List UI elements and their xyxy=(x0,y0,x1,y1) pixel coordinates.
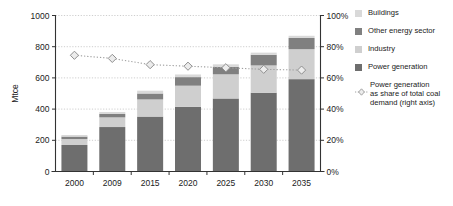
y-axis-right-tick-label: 0% xyxy=(327,167,340,177)
x-axis-category-label: 2030 xyxy=(254,178,273,188)
bar-segment xyxy=(213,74,239,98)
y-axis-right-tick-label: 40% xyxy=(327,104,344,114)
bar-segment xyxy=(175,77,201,86)
y-axis-left-tick-label: 400 xyxy=(35,104,49,114)
legend-item-other-energy-sector: Other energy sector xyxy=(355,27,453,36)
bar-segment xyxy=(289,36,315,38)
legend-swatch-other-energy-sector xyxy=(355,28,362,35)
y-axis-right-tick-label: 20% xyxy=(327,135,344,145)
bar-segment xyxy=(251,53,277,55)
legend-swatch-buildings xyxy=(355,10,362,17)
legend-item-power-generation: Power generation xyxy=(355,63,453,72)
legend-item-buildings: Buildings xyxy=(355,9,453,18)
chart-container: 020040060080010000%20%40%60%80%100%20002… xyxy=(0,0,453,206)
y-axis-left-tick-label: 600 xyxy=(35,73,49,83)
y-axis-left-tick-label: 200 xyxy=(35,135,49,145)
bar-segment xyxy=(175,74,201,77)
series-marker-diamond xyxy=(70,51,78,59)
bar-segment xyxy=(99,114,125,117)
bar-segment xyxy=(99,112,125,114)
bar-segment xyxy=(137,99,163,116)
bar-segment xyxy=(99,127,125,171)
bar-segment xyxy=(289,79,315,171)
bar-segment xyxy=(289,38,315,49)
bar-segment xyxy=(251,93,277,172)
bar-segment xyxy=(61,145,87,172)
bar-segment xyxy=(251,55,277,66)
x-axis-category-label: 2025 xyxy=(216,178,235,188)
bar-segment xyxy=(99,117,125,127)
bar-segment xyxy=(137,91,163,94)
series-marker-diamond xyxy=(184,62,192,70)
legend-swatch-industry xyxy=(355,46,362,53)
x-axis-category-label: 2009 xyxy=(103,178,122,188)
legend-label-industry: Industry xyxy=(368,45,395,54)
y-axis-left-tick-label: 800 xyxy=(35,42,49,52)
y-axis-left-tick-label: 0 xyxy=(45,167,50,177)
y-axis-left-tick-label: 1000 xyxy=(31,11,50,21)
bar-segment xyxy=(61,135,87,137)
bar-segment xyxy=(213,98,239,171)
x-axis-category-label: 2035 xyxy=(292,178,311,188)
bar-segment xyxy=(175,107,201,172)
bar-segment xyxy=(175,86,201,107)
series-marker-diamond xyxy=(108,54,116,62)
legend-label-buildings: Buildings xyxy=(368,9,399,18)
series-line xyxy=(112,58,150,64)
x-axis-category-label: 2000 xyxy=(65,178,84,188)
y-axis-right-tick-label: 60% xyxy=(327,73,344,83)
bar-segment xyxy=(61,137,87,140)
bar-segment xyxy=(137,117,163,172)
y-axis-left-title: Mtce xyxy=(10,84,20,103)
legend-swatch-power-generation xyxy=(355,64,362,71)
legend-label-power-generation-share: Power generation as share of total coal … xyxy=(370,81,453,107)
legend-label-power-generation: Power generation xyxy=(368,63,428,72)
bar-segment xyxy=(61,139,87,145)
y-axis-right-tick-label: 80% xyxy=(327,42,344,52)
legend-label-other-energy-sector: Other energy sector xyxy=(368,27,435,36)
legend-share-line-3: demand (right axis) xyxy=(370,98,435,107)
chart-legend: Buildings Other energy sector Industry P… xyxy=(355,9,453,117)
series-line xyxy=(150,65,188,67)
x-axis-category-label: 2015 xyxy=(141,178,160,188)
legend-diamond-marker-icon xyxy=(355,82,368,90)
legend-item-power-generation-share: Power generation as share of total coal … xyxy=(355,81,453,107)
series-marker-diamond xyxy=(146,61,154,69)
bar-segment xyxy=(137,94,163,100)
series-line xyxy=(74,55,112,58)
legend-item-industry: Industry xyxy=(355,45,453,54)
y-axis-right-tick-label: 100% xyxy=(327,11,349,21)
x-axis-category-label: 2020 xyxy=(179,178,198,188)
